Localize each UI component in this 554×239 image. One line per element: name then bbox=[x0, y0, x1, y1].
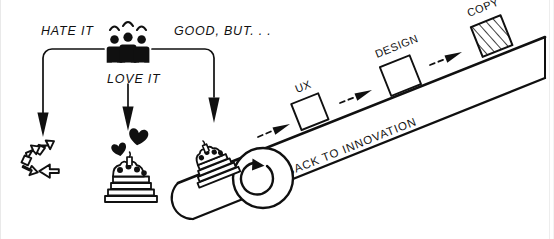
label-good-but: GOOD, BUT. . . bbox=[174, 24, 272, 38]
label-love-it: LOVE IT bbox=[107, 72, 161, 86]
belt-arrow-3 bbox=[430, 52, 462, 65]
flow-arrow-love-it bbox=[122, 84, 133, 131]
cake-icon bbox=[105, 152, 157, 202]
ux-box-label: UX bbox=[293, 78, 313, 95]
design-box-label: DESIGN bbox=[373, 32, 419, 60]
design-box: DESIGN bbox=[373, 32, 421, 96]
pulley-rotation-icon bbox=[233, 148, 293, 208]
recycle-icon bbox=[22, 141, 59, 178]
hand-drawn-flow-diagram: BACK TO INNOVATION bbox=[0, 0, 554, 239]
copy-box-label: COPY bbox=[465, 0, 500, 19]
conveyor-belt: BACK TO INNOVATION bbox=[172, 37, 545, 219]
copy-box: COPY bbox=[465, 0, 512, 57]
flow-arrow-hate-it bbox=[37, 49, 104, 137]
label-hate-it: HATE IT bbox=[41, 24, 94, 38]
diagram-canvas: BACK TO INNOVATION bbox=[0, 0, 554, 239]
right-edge-divider bbox=[549, 0, 550, 239]
left-edge-divider bbox=[0, 0, 1, 239]
belt-arrow-2 bbox=[340, 90, 372, 103]
three-people-icon bbox=[107, 22, 150, 63]
belt-arrow-1 bbox=[258, 124, 290, 137]
ux-box: UX bbox=[291, 78, 331, 130]
cake-icon bbox=[184, 132, 240, 187]
flow-arrow-good-but bbox=[152, 49, 220, 123]
